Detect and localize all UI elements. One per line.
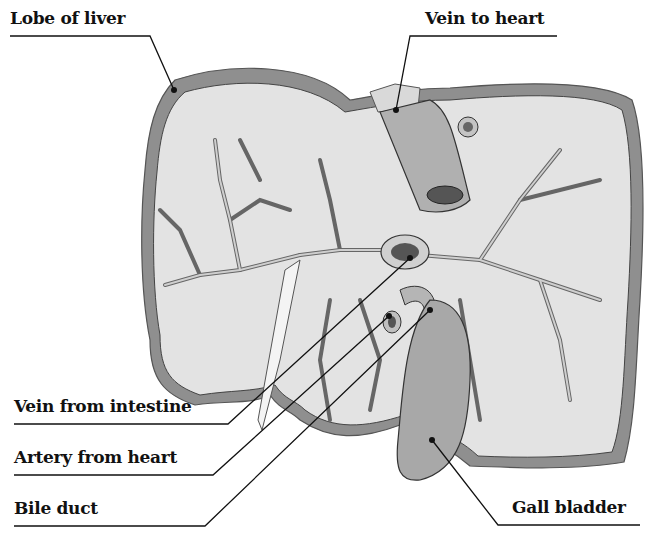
label-vein-to-heart: Vein to heart [425, 8, 544, 28]
vein-to-heart-lumen [427, 186, 463, 204]
label-gall-bladder: Gall bladder [512, 497, 626, 517]
label-lobe-of-liver: Lobe of liver [10, 8, 125, 28]
label-vein-from-intestine: Vein from intestine [14, 396, 192, 416]
label-artery-from-heart: Artery from heart [14, 447, 177, 467]
label-bile-duct: Bile duct [14, 498, 98, 518]
vein-from-intestine-lumen [391, 243, 419, 261]
leader-lobe-of-liver [10, 36, 174, 90]
small-vessel-top-lumen [463, 122, 473, 132]
liver-illustration [0, 0, 652, 557]
